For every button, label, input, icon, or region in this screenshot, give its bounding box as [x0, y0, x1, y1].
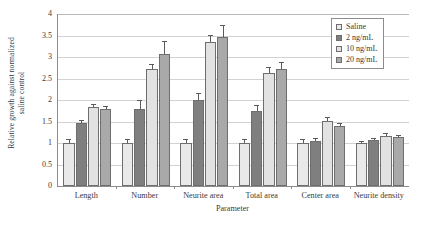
legend-item[interactable]: 2 ng/mL: [336, 33, 377, 43]
bar[interactable]: [251, 111, 262, 186]
legend-swatch-icon: [336, 24, 342, 30]
y-axis-title-line2: saline control: [17, 37, 27, 149]
error-bar: [386, 134, 387, 136]
legend: Saline2 ng/mL10 ng/mL20 ng/mL: [331, 18, 384, 69]
error-bar-cap: [325, 117, 330, 118]
bar[interactable]: [146, 69, 157, 186]
y-axis-tick-labels: 43.532.521.510.50: [30, 14, 55, 186]
error-bar-cap: [359, 141, 364, 142]
bar[interactable]: [205, 42, 216, 186]
bar[interactable]: [310, 141, 321, 186]
error-bar-cap: [103, 106, 108, 107]
legend-item[interactable]: 20 ng/mL: [336, 55, 377, 65]
error-bar: [303, 140, 304, 143]
bar-group: [58, 14, 117, 186]
bar-group-bars: [239, 14, 287, 186]
x-axis-tick-label: Number: [116, 190, 175, 202]
bar[interactable]: [180, 143, 191, 186]
error-bar-cap: [279, 62, 284, 63]
bar-slot: [100, 14, 111, 186]
bar-slot: [297, 14, 308, 186]
bar-slot: [76, 14, 87, 186]
x-axis-tick-mark: [174, 186, 175, 189]
error-bar: [281, 63, 282, 68]
error-bar-cap: [300, 139, 305, 140]
legend-item[interactable]: Saline: [336, 22, 377, 32]
bar[interactable]: [380, 136, 391, 186]
bar[interactable]: [263, 73, 274, 186]
bar-slot: [122, 14, 133, 186]
y-axis-tick-label: 2: [30, 96, 55, 104]
y-axis-tick-label: 1.5: [30, 118, 55, 126]
legend-swatch-icon: [336, 35, 342, 41]
bar[interactable]: [276, 69, 287, 186]
y-axis-title-line1: Relative growth against normalized: [7, 37, 17, 149]
bar[interactable]: [100, 109, 111, 186]
y-axis-tick-label: 3.5: [30, 32, 55, 40]
x-axis-tick-label: Neurite density: [350, 190, 409, 202]
y-axis-title: Relative growth against normalized salin…: [2, 0, 32, 186]
error-bar-cap: [183, 139, 188, 140]
bar-group: [175, 14, 234, 186]
bar[interactable]: [217, 37, 228, 186]
bar[interactable]: [356, 143, 367, 186]
bar-slot: [88, 14, 99, 186]
bar[interactable]: [239, 143, 250, 186]
bar[interactable]: [122, 143, 133, 186]
error-bar: [244, 140, 245, 143]
bar[interactable]: [88, 107, 99, 186]
bar-slot: [393, 14, 404, 186]
error-bar: [152, 65, 153, 69]
bar[interactable]: [393, 137, 404, 186]
error-bar: [315, 139, 316, 141]
bar-group-bars: [63, 14, 111, 186]
bar-slot: [310, 14, 321, 186]
error-bar: [257, 106, 258, 111]
bar[interactable]: [297, 143, 308, 186]
bar[interactable]: [368, 140, 379, 186]
bar-slot: [180, 14, 191, 186]
bar[interactable]: [134, 109, 145, 186]
error-bar-cap: [137, 100, 142, 101]
bar[interactable]: [76, 123, 87, 186]
bar[interactable]: [193, 100, 204, 186]
bar-slot: [251, 14, 262, 186]
y-axis-tick-label: 1: [30, 139, 55, 147]
error-bar-cap: [208, 35, 213, 36]
y-axis-tick-label: 3: [30, 53, 55, 61]
error-bar-cap: [149, 64, 154, 65]
error-bar-cap: [266, 67, 271, 68]
error-bar-cap: [79, 120, 84, 121]
bar-group: [117, 14, 176, 186]
x-axis-tick-label: Neurite area: [174, 190, 233, 202]
bar-slot: [134, 14, 145, 186]
y-axis-tick-label: 4: [30, 10, 55, 18]
error-bar-cap: [162, 41, 167, 42]
error-bar-cap: [196, 93, 201, 94]
legend-item[interactable]: 10 ng/mL: [336, 44, 377, 54]
error-bar: [186, 140, 187, 143]
x-axis-tick-mark: [350, 186, 351, 189]
x-axis-tick-label: Total area: [233, 190, 292, 202]
legend-item-label: Saline: [346, 22, 366, 32]
bar-slot: [217, 14, 228, 186]
bar[interactable]: [334, 126, 345, 186]
error-bar: [164, 42, 165, 54]
bar-slot: [239, 14, 250, 186]
bar[interactable]: [159, 54, 170, 186]
error-bar: [210, 36, 211, 41]
legend-swatch-icon: [336, 57, 342, 63]
error-bar: [93, 105, 94, 107]
bar[interactable]: [322, 121, 333, 186]
bar-slot: [63, 14, 74, 186]
error-bar-cap: [383, 133, 388, 134]
error-bar-cap: [313, 138, 318, 139]
y-axis-tick-label: 2.5: [30, 75, 55, 83]
bar[interactable]: [63, 143, 74, 186]
error-bar-cap: [220, 25, 225, 26]
error-bar: [140, 101, 141, 109]
error-bar: [269, 68, 270, 73]
error-bar: [361, 142, 362, 143]
x-axis-tick-label: Center area: [291, 190, 350, 202]
error-bar: [81, 121, 82, 123]
